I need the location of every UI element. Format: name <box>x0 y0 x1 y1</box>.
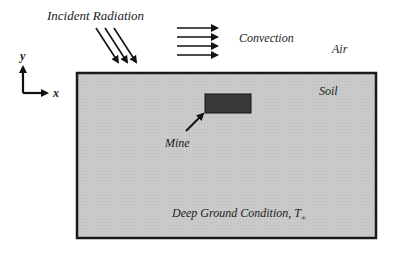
convection-label: Convection <box>239 31 294 46</box>
deep-ground-label: Deep Ground Condition, T∞ <box>172 206 306 222</box>
radiation-arrows <box>96 28 136 62</box>
axis-icon <box>23 67 47 93</box>
deep-ground-text: Deep Ground Condition, T <box>172 206 301 220</box>
axis-x-label: x <box>53 86 59 101</box>
convection-arrows <box>177 28 217 55</box>
incident-radiation-label: Incident Radiation <box>47 8 144 24</box>
mine-label: Mine <box>165 136 190 151</box>
soil-label: Soil <box>319 84 338 99</box>
air-label: Air <box>332 42 347 57</box>
deep-ground-subscript: ∞ <box>301 214 306 222</box>
mine-block <box>205 94 251 113</box>
axis-y-label: y <box>20 49 25 64</box>
